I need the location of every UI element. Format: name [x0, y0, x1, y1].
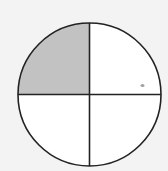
- scan-artifact-dot: [141, 84, 145, 87]
- circle-quarters-figure: [0, 0, 168, 171]
- shaded-quadrant-top-left: [18, 23, 90, 95]
- fraction-diagram: [0, 0, 168, 171]
